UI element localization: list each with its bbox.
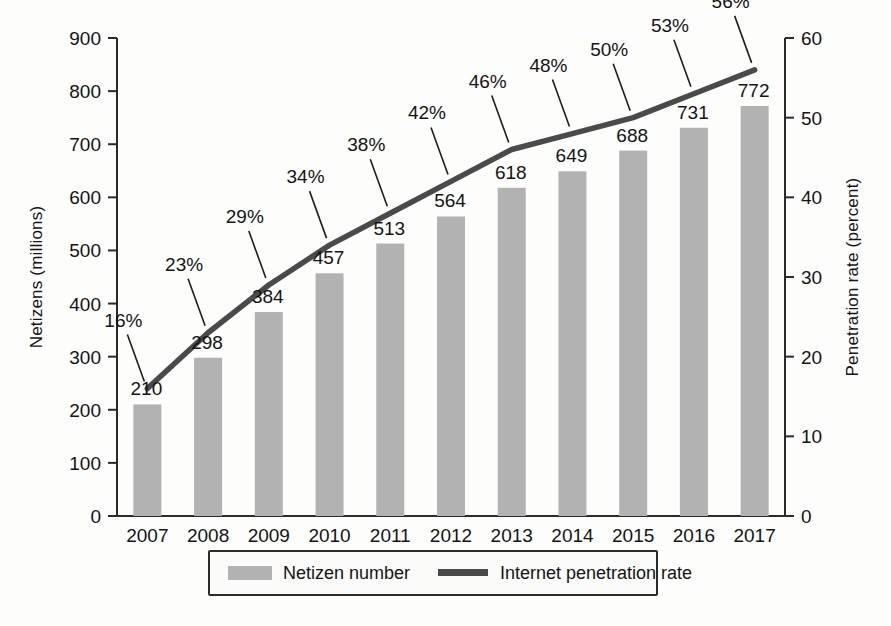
x-axis-tick-label: 2017 <box>733 525 775 546</box>
bar-value-label: 688 <box>616 125 648 146</box>
bar-value-label: 513 <box>373 218 405 239</box>
left-tick-label: 300 <box>69 347 101 368</box>
bar <box>619 151 647 516</box>
left-tick-label: 900 <box>69 28 101 49</box>
right-tick-label: 60 <box>801 28 822 49</box>
left-tick-label: 800 <box>69 81 101 102</box>
percent-value-label: 50% <box>590 39 628 60</box>
left-tick-label: 0 <box>90 506 101 527</box>
legend-swatch-netizen-number <box>228 566 272 580</box>
x-axis-tick-label: 2015 <box>612 525 654 546</box>
x-axis-tick-label: 2016 <box>673 525 715 546</box>
dual-axis-chart: 0100200300400500600700800900 01020304050… <box>0 0 891 626</box>
left-tick-label: 700 <box>69 134 101 155</box>
x-axis-tick-label: 2009 <box>248 525 290 546</box>
percent-value-label: 29% <box>226 206 264 227</box>
left-tick-label: 400 <box>69 294 101 315</box>
bar-value-label: 210 <box>131 378 163 399</box>
bar-value-label: 731 <box>677 102 709 123</box>
legend-label-netizen-number: Netizen number <box>283 563 410 583</box>
bar <box>255 312 283 516</box>
bar <box>316 273 344 516</box>
x-axis-tick-label: 2013 <box>491 525 533 546</box>
percent-value-label: 16% <box>104 310 142 331</box>
bar <box>741 106 769 516</box>
right-tick-label: 10 <box>801 426 822 447</box>
percent-value-label: 56% <box>712 0 750 12</box>
bar-value-label: 564 <box>434 190 466 211</box>
bar <box>680 128 708 516</box>
bar <box>133 404 161 516</box>
x-axis-tick-label: 2011 <box>370 525 411 546</box>
legend-label-internet-penetration-rate: Internet penetration rate <box>500 563 692 583</box>
x-axis-tick-label: 2010 <box>308 525 350 546</box>
bar-value-label: 618 <box>495 162 527 183</box>
x-axis-tick-label: 2014 <box>551 525 594 546</box>
bar <box>376 244 404 516</box>
bar <box>558 171 586 516</box>
chart-figure: 0100200300400500600700800900 01020304050… <box>0 0 891 626</box>
bar-value-label: 384 <box>252 286 284 307</box>
bar-value-label: 649 <box>556 145 588 166</box>
x-axis-category-labels: 2007200820092010201120122013201420152016… <box>126 525 776 546</box>
percent-value-label: 34% <box>287 166 325 187</box>
percent-value-label: 46% <box>469 71 507 92</box>
percent-value-label: 53% <box>651 15 689 36</box>
legend-swatch-internet-penetration-rate <box>438 569 488 576</box>
bar <box>194 358 222 516</box>
bar <box>498 188 526 516</box>
left-tick-label: 600 <box>69 187 101 208</box>
left-tick-label: 200 <box>69 400 101 421</box>
right-tick-label: 40 <box>801 187 822 208</box>
left-tick-label: 500 <box>69 240 101 261</box>
right-tick-label: 30 <box>801 267 822 288</box>
percent-value-label: 48% <box>529 55 567 76</box>
left-axis-title: Netizens (millions) <box>27 206 46 349</box>
right-axis-title: Penetration rate (percent) <box>843 178 862 377</box>
bar-value-label: 772 <box>738 80 770 101</box>
percent-value-label: 42% <box>408 102 446 123</box>
bar-value-label: 457 <box>313 247 345 268</box>
bar <box>437 216 465 516</box>
x-axis-tick-label: 2012 <box>430 525 472 546</box>
left-tick-label: 100 <box>69 453 101 474</box>
right-tick-label: 20 <box>801 347 822 368</box>
chart-legend: Netizen number Internet penetration rate <box>209 551 692 595</box>
percent-value-label: 23% <box>165 254 203 275</box>
percent-value-label: 38% <box>347 134 385 155</box>
bar-value-label: 298 <box>191 332 223 353</box>
x-axis-tick-label: 2008 <box>187 525 229 546</box>
right-tick-label: 50 <box>801 108 822 129</box>
right-tick-label: 0 <box>801 506 812 527</box>
x-axis-tick-label: 2007 <box>126 525 168 546</box>
